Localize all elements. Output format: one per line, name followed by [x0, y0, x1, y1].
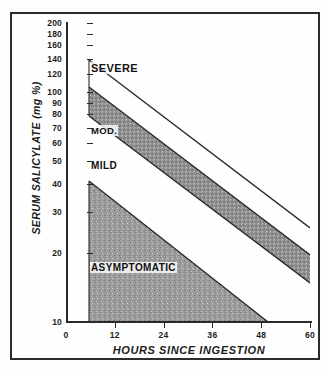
- y-tick-mark: [87, 212, 93, 213]
- y-tick-mark: [87, 103, 93, 104]
- y-tick-mark: [87, 45, 93, 46]
- zone-label-mild: MILD: [90, 160, 118, 171]
- zone-label-asymptomatic: ASYMPTOMATIC: [90, 262, 177, 273]
- y-tick-mark: [87, 143, 93, 144]
- y-tick-label: 70: [52, 123, 62, 133]
- x-tick-label: 12: [110, 330, 120, 340]
- y-tick-label: 80: [52, 109, 62, 119]
- y-tick-mark: [87, 322, 93, 323]
- y-tick-mark: [87, 23, 93, 24]
- x-tick-label: 36: [207, 330, 217, 340]
- x-tick-label: 24: [159, 330, 169, 340]
- x-axis-tick-labels: 01224364860: [0, 330, 328, 344]
- x-axis-title: HOURS SINCE INGESTION: [66, 344, 312, 356]
- y-tick-mark: [87, 74, 93, 75]
- x-tick-mark: [212, 323, 213, 328]
- y-tick-label: 10: [52, 317, 62, 327]
- y-tick-label: 100: [47, 87, 62, 97]
- zone-label-moderate: MOD.: [90, 125, 118, 136]
- y-tick-label: 50: [52, 156, 62, 166]
- y-tick-label: 60: [52, 138, 62, 148]
- x-tick-label: 48: [256, 330, 266, 340]
- salicylate-nomogram-figure: SEVERE MOD. MILD ASYMPTOMATIC 2001801601…: [0, 0, 328, 374]
- y-tick-label: 120: [47, 69, 62, 79]
- plot-area: SEVERE MOD. MILD ASYMPTOMATIC: [66, 23, 310, 322]
- y-axis-title: SERUM SALICYLATE (mg %): [30, 43, 42, 273]
- boundary-severe-upper: [89, 60, 310, 228]
- y-tick-mark: [87, 184, 93, 185]
- y-tick-label: 160: [47, 40, 62, 50]
- y-tick-label: 180: [47, 29, 62, 39]
- y-tick-mark: [87, 59, 93, 60]
- y-tick-mark: [87, 253, 93, 254]
- y-tick-mark: [87, 114, 93, 115]
- y-tick-label: 20: [52, 248, 62, 258]
- y-tick-label: 30: [52, 207, 62, 217]
- y-tick-mark: [87, 92, 93, 93]
- y-tick-label: 140: [47, 54, 62, 64]
- x-tick-label: 60: [305, 330, 315, 340]
- x-tick-mark: [261, 323, 262, 328]
- y-tick-label: 40: [52, 179, 62, 189]
- y-tick-mark: [87, 128, 93, 129]
- y-tick-mark: [87, 161, 93, 162]
- x-tick-label: 0: [63, 330, 68, 340]
- y-axis-title-wrapper: SERUM SALICYLATE (mg %): [30, 43, 46, 273]
- y-axis-line: [66, 22, 68, 323]
- zone-label-severe: SEVERE: [90, 62, 139, 74]
- x-tick-mark: [310, 323, 311, 328]
- x-tick-mark: [164, 323, 165, 328]
- x-axis-line: [66, 321, 312, 323]
- y-tick-label: 200: [47, 18, 62, 28]
- y-tick-mark: [87, 34, 93, 35]
- x-tick-mark: [115, 323, 116, 328]
- y-tick-label: 90: [52, 98, 62, 108]
